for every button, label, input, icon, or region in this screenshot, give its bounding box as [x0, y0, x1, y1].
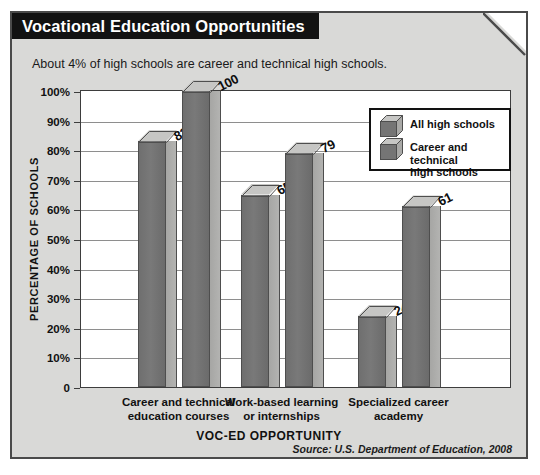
y-axis-tick-label: 80%	[47, 145, 70, 157]
legend-item-label-line1: All high schools	[410, 118, 495, 131]
y-axis-tick-label: 20%	[47, 323, 70, 335]
legend-item-label: Career and technicalhigh schools	[410, 138, 509, 179]
y-axis-tick	[74, 388, 80, 389]
bar-front-face	[138, 141, 166, 387]
y-axis-tick	[74, 358, 80, 359]
bar-side-face	[386, 316, 397, 387]
y-axis-tick-label: 60%	[47, 204, 70, 216]
y-axis-tick-label: 100%	[41, 86, 70, 98]
y-axis-tick	[74, 181, 80, 182]
bar: 65	[241, 184, 280, 387]
bar: 79	[285, 142, 324, 387]
y-axis-tick-label: 40%	[47, 264, 70, 276]
legend-item-label-line2: high schools	[410, 166, 509, 179]
bar-front-face	[402, 206, 430, 387]
y-axis-tick	[74, 329, 80, 330]
bar-side-face	[313, 153, 324, 387]
y-axis-title-text: PERCENTAGE OF SCHOOLS	[28, 157, 40, 321]
y-axis-tick-label: 90%	[47, 116, 70, 128]
y-axis-tick-label: 70%	[47, 175, 70, 187]
legend-item: Career and technicalhigh schools	[380, 138, 509, 179]
chart-panel: Vocational Education Opportunities About…	[10, 11, 528, 459]
source-note: Source: U.S. Department of Education, 20…	[293, 443, 512, 455]
bar: 83	[138, 130, 177, 387]
y-axis-tick	[74, 151, 80, 152]
chart-legend: All high schoolsCareer and technicalhigh…	[369, 108, 511, 171]
bar-front-face	[241, 195, 269, 387]
y-axis-tick	[74, 210, 80, 211]
panel-title-bar: Vocational Education Opportunities	[12, 13, 319, 39]
bar: 100	[182, 80, 221, 387]
y-axis-tick	[74, 122, 80, 123]
corner-cut-decoration	[486, 11, 528, 53]
bar-side-face	[269, 195, 280, 387]
y-axis-tick-label: 10%	[47, 352, 70, 364]
y-axis-tick-label: 0	[64, 382, 70, 394]
page-title: Vocational Education Opportunities	[22, 17, 305, 36]
bar-front-face	[182, 91, 210, 387]
bar-front-face	[285, 153, 313, 387]
bar-side-face	[210, 91, 221, 387]
legend-item-label-line1: Career and technical	[410, 141, 509, 166]
y-axis-tick	[74, 299, 80, 300]
legend-item: All high schools	[380, 115, 495, 137]
y-axis-tick-label: 50%	[47, 234, 70, 246]
x-axis-category-line2: academy	[319, 410, 479, 424]
bar-side-face	[166, 141, 177, 387]
x-axis-category-label: Specialized careeracademy	[319, 396, 479, 423]
x-axis-title: VOC-ED OPPORTUNITY	[12, 429, 526, 443]
bar: 61	[402, 195, 441, 387]
bar-side-face	[430, 206, 441, 387]
panel-subtitle: About 4% of high schools are career and …	[32, 57, 387, 71]
x-axis-category-line1: Specialized career	[319, 396, 479, 410]
bar-front-face	[358, 316, 386, 387]
legend-swatch-cube-icon	[380, 138, 403, 160]
y-axis-tick	[74, 92, 80, 93]
y-axis-tick	[74, 240, 80, 241]
bar: 24	[358, 305, 397, 387]
y-axis-title: PERCENTAGE OF SCHOOLS	[26, 90, 42, 388]
legend-swatch-cube-icon	[380, 115, 403, 137]
y-axis-tick	[74, 270, 80, 271]
y-axis-tick-label: 30%	[47, 293, 70, 305]
legend-item-label: All high schools	[410, 115, 495, 131]
